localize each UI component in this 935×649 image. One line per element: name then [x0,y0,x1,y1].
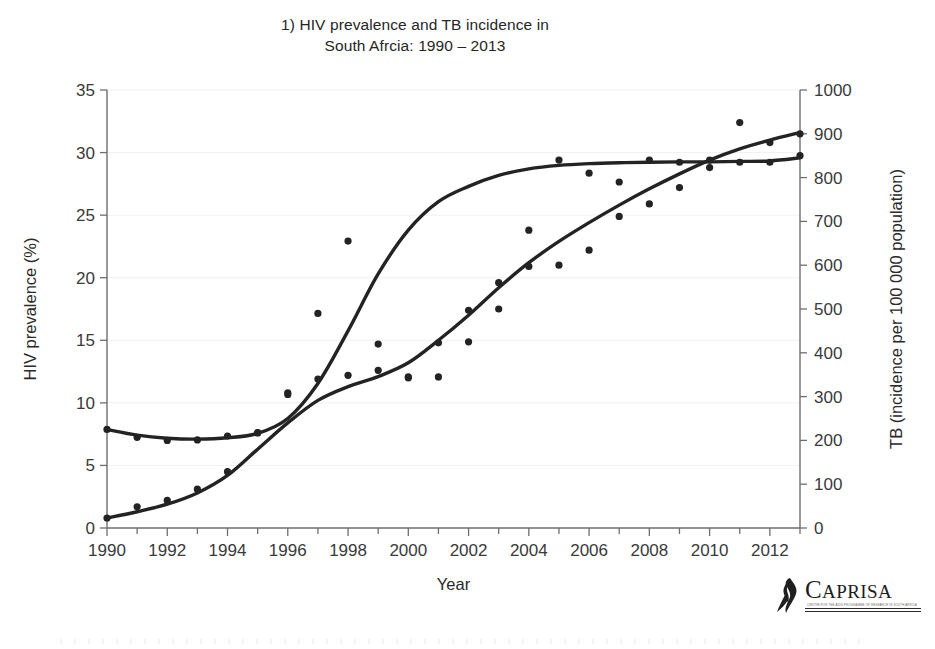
data-point [495,279,502,286]
data-point [194,436,201,443]
data-point [706,156,713,163]
data-point [465,307,472,314]
data-point [676,184,683,191]
data-point [103,514,110,521]
data-point [646,200,653,207]
data-point [375,340,382,347]
data-point [284,391,291,398]
y-tick-label: 35 [76,81,95,100]
y-tick-label: 25 [76,206,95,225]
data-point [134,503,141,510]
y2-tick-label: 200 [814,431,842,450]
caprisa-wordmark: CAPRISA [805,576,892,604]
y2-tick-label: 400 [814,344,842,363]
data-point [796,130,803,137]
y2-axis-title: TB (incidence per 100 000 population) [887,169,905,449]
data-point [314,375,321,382]
data-point [194,486,201,493]
x-tick-label: 2010 [691,541,729,560]
data-point [676,159,683,166]
data-point [796,152,803,159]
data-point [766,139,773,146]
data-point [375,367,382,374]
x-tick-label: 2004 [510,541,548,560]
data-point [555,262,562,269]
data-point [103,426,110,433]
x-tick-label: 2012 [751,541,789,560]
data-point [736,159,743,166]
y2-tick-label: 600 [814,256,842,275]
data-point [344,238,351,245]
y-tick-label: 15 [76,331,95,350]
x-tick-label: 2000 [389,541,427,560]
data-point [314,310,321,317]
data-point [164,437,171,444]
x-tick-label: 1990 [88,541,126,560]
data-point [736,119,743,126]
data-point [646,156,653,163]
axes [107,90,800,528]
caprisa-tagline: CENTRE FOR THE AIDS PROGRAMME OF RESEARC… [807,603,919,607]
y2-tick-label: 900 [814,125,842,144]
x-tick-label: 1996 [269,541,307,560]
data-point [224,432,231,439]
y2-tick-label: 800 [814,169,842,188]
series-fit-line-0 [107,133,800,518]
y2-tick-label: 1000 [814,81,852,100]
data-point [585,170,592,177]
y2-tick-label: 700 [814,212,842,231]
y-tick-label: 30 [76,144,95,163]
data-point [435,373,442,380]
series-scatter-markers [103,119,803,522]
figure-container: 1) HIV prevalence and TB incidence in So… [0,0,935,649]
y-tick-label: 20 [76,269,95,288]
caprisa-wordmark-rest: APRISA [822,581,892,602]
data-point [585,247,592,254]
caprisa-rules [805,608,921,614]
data-point [525,263,532,270]
y-tick-label: 5 [86,456,95,475]
series-fit-lines [107,133,800,518]
x-tick-label: 1994 [209,541,247,560]
data-point [344,372,351,379]
data-point [555,156,562,163]
data-point [495,305,502,312]
x-axis-title: Year [437,575,471,593]
y-axis-title: HIV prevalence (%) [21,237,39,380]
data-point [465,338,472,345]
y-tick-label: 0 [86,519,95,538]
x-tick-label: 2006 [570,541,608,560]
data-point [525,227,532,234]
caprisa-wordmark-cap: C [805,576,822,603]
data-point [405,373,412,380]
y2-tick-label: 300 [814,388,842,407]
awareness-ribbon-icon [775,575,805,615]
page-bottom-text-artifact [60,639,860,644]
axis-titles: YearHIV prevalence (%)TB (incidence per … [21,169,905,593]
y2-tick-label: 0 [814,519,823,538]
y2-tick-label: 100 [814,475,842,494]
caprisa-logo: CAPRISA CENTRE FOR THE AIDS PROGRAMME OF… [775,575,925,623]
x-tick-label: 1992 [148,541,186,560]
y2-tick-label: 500 [814,300,842,319]
gridlines [107,90,800,465]
data-point [164,497,171,504]
chart-plot: 0510152025303501002003004005006007008009… [0,0,935,649]
data-point [616,178,623,185]
axis-ticks [100,90,807,536]
x-tick-label: 2002 [450,541,488,560]
y-tick-label: 10 [76,394,95,413]
data-point [706,164,713,171]
data-point [616,213,623,220]
x-tick-label: 1998 [329,541,367,560]
data-point [766,159,773,166]
data-point [224,468,231,475]
data-point [134,434,141,441]
data-point [254,429,261,436]
data-point [435,339,442,346]
series-fit-line-1 [107,158,800,439]
x-tick-label: 2008 [630,541,668,560]
